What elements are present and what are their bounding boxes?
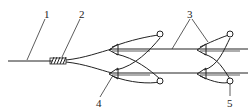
fiber-branching-diagram: 1 2 3 4 5 xyxy=(0,0,252,111)
terminal-circle-1-lower xyxy=(157,78,163,84)
label-4: 4 xyxy=(96,97,102,109)
lower-branch xyxy=(66,62,112,73)
leader-1 xyxy=(27,19,45,60)
label-5: 5 xyxy=(227,97,233,109)
leader-3a xyxy=(172,19,190,49)
leader-3b xyxy=(192,19,208,42)
terminal-circle-2-lower xyxy=(227,78,233,84)
label-1: 1 xyxy=(44,8,50,20)
terminal-circle-1-upper xyxy=(157,31,163,37)
label-2: 2 xyxy=(79,8,85,20)
upper-branch xyxy=(66,49,112,60)
leader-4 xyxy=(100,77,112,97)
leader-2 xyxy=(62,19,80,57)
coil-winding xyxy=(50,57,66,64)
label-3: 3 xyxy=(187,8,193,20)
terminal-circle-2-upper xyxy=(227,31,233,37)
